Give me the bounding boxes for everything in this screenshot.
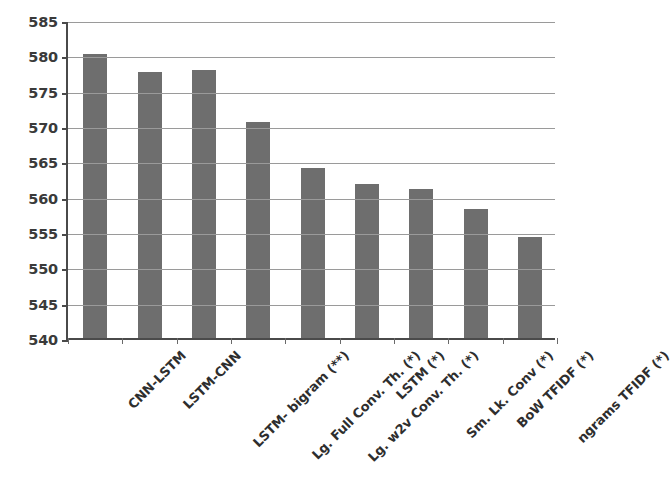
y-axis-tick-label: 580 bbox=[28, 49, 58, 65]
bar bbox=[138, 72, 162, 338]
y-axis-tick bbox=[62, 305, 68, 307]
y-axis-tick bbox=[62, 128, 68, 130]
gridline bbox=[68, 305, 555, 306]
y-axis-tick bbox=[62, 234, 68, 236]
x-axis-tick bbox=[394, 338, 395, 344]
bar bbox=[192, 70, 216, 338]
x-axis-tick bbox=[340, 338, 341, 344]
gridline bbox=[68, 234, 555, 235]
y-axis-tick-label: 585 bbox=[28, 14, 58, 30]
y-axis-tick-label: 560 bbox=[28, 191, 58, 207]
gridline bbox=[68, 163, 555, 164]
x-axis-tick bbox=[122, 338, 123, 344]
x-axis-tick-label: BoW TFIDF (*) bbox=[513, 348, 596, 431]
bar bbox=[409, 189, 433, 338]
gridline bbox=[68, 22, 555, 23]
x-axis-labels: CNN-LSTMLSTM-CNNLSTM- bigram (**)Lg. Ful… bbox=[66, 348, 555, 485]
bar bbox=[83, 54, 107, 338]
bar bbox=[464, 209, 488, 338]
x-axis-tick bbox=[448, 338, 449, 344]
bars-layer bbox=[68, 22, 555, 338]
y-axis-labels: 585580575570565560555550545540 bbox=[0, 22, 58, 340]
x-axis-tick bbox=[285, 338, 286, 344]
y-axis-tick-label: 555 bbox=[28, 226, 58, 242]
y-axis-tick bbox=[62, 269, 68, 271]
y-axis-tick-label: 575 bbox=[28, 85, 58, 101]
y-axis-tick-label: 540 bbox=[28, 332, 58, 348]
bar bbox=[301, 168, 325, 338]
y-axis-tick bbox=[62, 57, 68, 59]
x-axis-tick bbox=[557, 338, 558, 344]
y-axis-tick-label: 570 bbox=[28, 120, 58, 136]
y-axis-tick-label: 550 bbox=[28, 261, 58, 277]
bar bbox=[355, 184, 379, 338]
x-axis-tick bbox=[503, 338, 504, 344]
y-axis-tick bbox=[62, 199, 68, 201]
y-axis-tick bbox=[62, 22, 68, 24]
x-axis-tick-label: LSTM-CNN bbox=[180, 348, 244, 412]
gridline bbox=[68, 93, 555, 94]
gridline bbox=[68, 269, 555, 270]
x-axis-tick bbox=[177, 338, 178, 344]
y-axis-tick-label: 545 bbox=[28, 297, 58, 313]
x-axis-tick-label: CNN-LSTM bbox=[125, 348, 189, 412]
x-axis-tick bbox=[231, 338, 232, 344]
y-axis-tick bbox=[62, 93, 68, 95]
plot-area bbox=[66, 22, 555, 340]
gridline bbox=[68, 128, 555, 129]
y-axis-tick-label: 565 bbox=[28, 155, 58, 171]
bar bbox=[518, 237, 542, 338]
x-axis-origin-tick bbox=[68, 338, 69, 344]
gridline bbox=[68, 199, 555, 200]
gridline bbox=[68, 57, 555, 58]
y-axis-tick bbox=[62, 163, 68, 165]
